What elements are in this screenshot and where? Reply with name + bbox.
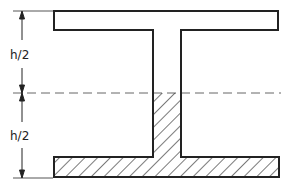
lower-dimension-label: h/2	[10, 129, 29, 143]
hatched-region	[54, 93, 278, 177]
i-beam-diagram: h/2 h/2	[0, 0, 289, 189]
arrowhead-up-icon	[20, 93, 25, 101]
arrowhead-up-icon	[20, 11, 25, 19]
upper-dimension-label: h/2	[10, 48, 29, 62]
extension-lines	[13, 11, 53, 178]
arrowhead-down-icon	[20, 170, 25, 178]
web-lower-hatch	[154, 93, 180, 158]
bottom-flange-hatch	[54, 158, 278, 177]
